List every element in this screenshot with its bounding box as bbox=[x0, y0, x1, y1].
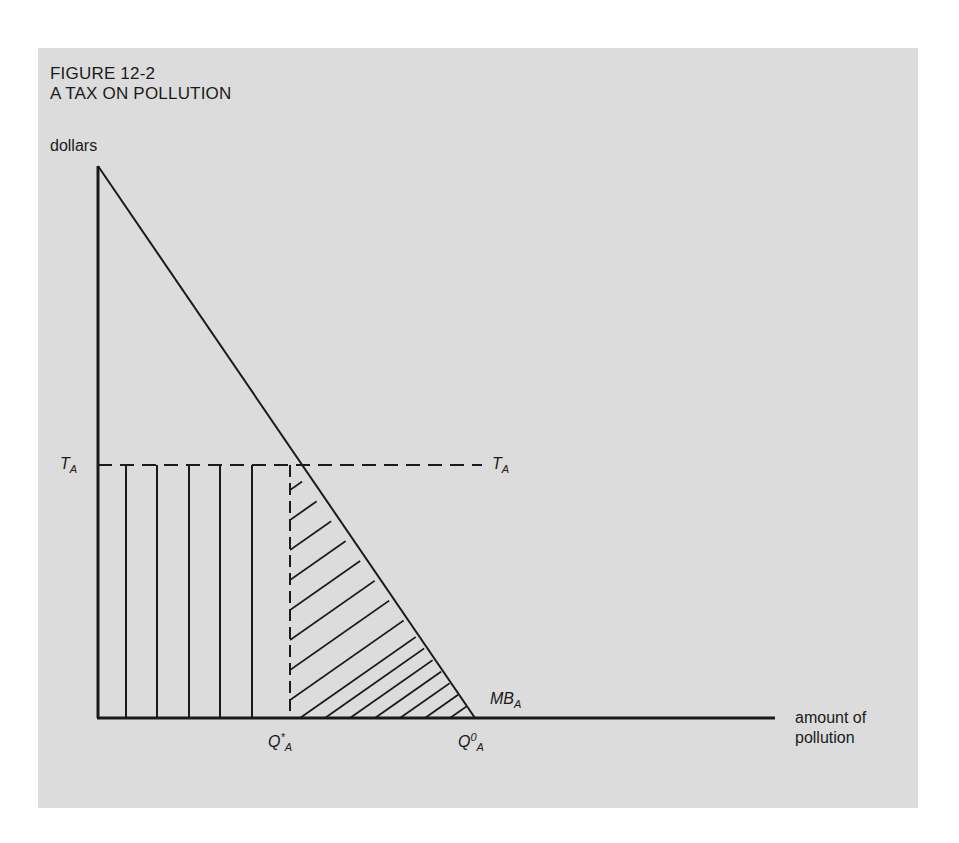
mb-curve bbox=[98, 166, 475, 718]
q-star-label: Q*A bbox=[268, 733, 292, 751]
tax-payment-lines bbox=[126, 465, 252, 718]
mb-curve-label: MBA bbox=[490, 690, 521, 708]
abatement-hatching bbox=[290, 455, 760, 718]
tax-label-right: TA bbox=[492, 455, 509, 473]
x-axis-label-line1: amount of bbox=[795, 709, 866, 727]
figure-page: FIGURE 12-2 A TAX ON POLLUTION dollars bbox=[0, 0, 959, 843]
q-zero-label: Q0A bbox=[458, 733, 484, 751]
tax-label-left: TA bbox=[60, 455, 77, 473]
x-axis-label-line2: pollution bbox=[795, 729, 855, 747]
